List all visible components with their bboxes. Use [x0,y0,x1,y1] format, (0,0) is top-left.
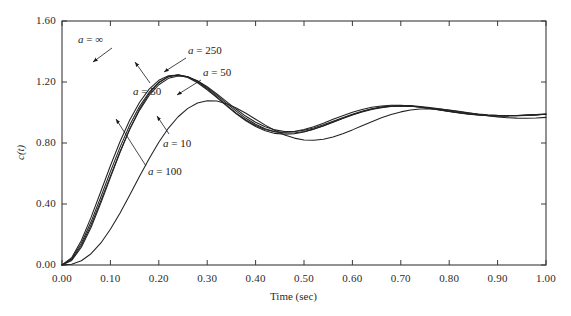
curve-250 [62,75,546,265]
y-tick-label: 0.00 [14,258,56,270]
figure-container: 0.000.400.801.201.60 0.000.100.200.300.4… [0,0,571,316]
y-tick-label: 0.40 [14,197,56,209]
x-axis-title: Time (sec) [270,290,317,302]
annot-a-50-right: a = 50 [203,66,231,78]
annot-a-50-right-leader [177,80,201,95]
curve-100 [62,75,546,265]
annot-a-250-leader [164,58,186,72]
curve-infinity [62,76,546,265]
annot-a-infinity-leader [93,48,112,62]
annot-a-infinity: a = ∞ [78,33,103,45]
y-tick-label: 1.20 [14,75,56,87]
annotation-value: = ∞ [84,33,104,45]
annotation-value: = 50 [209,66,232,78]
curve-50 [62,75,546,265]
annot-a-100: a = 100 [148,165,182,177]
annot-a-50-left-leader [135,62,150,83]
x-tick-label: 0.90 [474,272,522,284]
annotation-value: = 250 [194,44,222,56]
x-tick-label: 0.80 [425,272,473,284]
x-tick-label: 0.00 [38,272,86,284]
response-curves [62,75,546,265]
annotation-value: = 100 [154,165,182,177]
axis-ticks [62,21,546,265]
x-tick-label: 0.70 [377,272,425,284]
curve-10 [62,101,546,265]
annotation-value: = 10 [169,137,192,149]
x-tick-label: 0.10 [86,272,134,284]
annotation-value: = 50 [139,85,162,97]
annot-a-250: a = 250 [188,44,222,56]
step-response-chart [0,0,571,316]
y-axis-title: c(t) [14,145,26,160]
x-tick-label: 0.20 [135,272,183,284]
x-tick-label: 1.00 [522,272,570,284]
x-tick-label: 0.50 [280,272,328,284]
annot-a-50-left: a = 50 [133,85,161,97]
y-tick-label: 1.60 [14,14,56,26]
annot-a-10-leader [157,116,169,134]
annot-a-10: a = 10 [163,137,191,149]
x-tick-label: 0.30 [183,272,231,284]
x-tick-label: 0.60 [328,272,376,284]
axes-frame [62,21,546,265]
x-tick-label: 0.40 [232,272,280,284]
